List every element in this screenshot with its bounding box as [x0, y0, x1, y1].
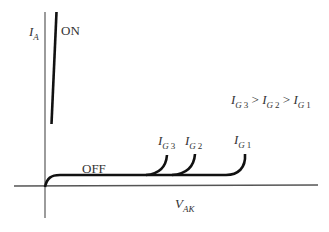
- characteristic-plot: [0, 0, 329, 232]
- on-label: ON: [61, 24, 80, 37]
- off-label: OFF: [82, 162, 106, 175]
- rel-term-2-symbol: I: [262, 92, 266, 107]
- rel-op-2: >: [283, 92, 290, 107]
- x-axis-symbol: V: [175, 196, 183, 211]
- ig2-index: 2: [198, 141, 203, 151]
- ig2-label: IG2: [185, 134, 202, 147]
- ig2-curve: [172, 154, 195, 175]
- rel-term-3-subscript: G: [298, 100, 305, 110]
- rel-op-1: >: [252, 92, 259, 107]
- y-axis-subscript: A: [33, 32, 39, 42]
- on-state-curve: [52, 12, 57, 124]
- ig1-label: IG1: [234, 133, 251, 146]
- x-axis-label: VAK: [175, 197, 194, 210]
- ig1-index: 1: [247, 140, 252, 150]
- off-state-curve: [45, 154, 245, 187]
- rel-term-1-index: 3: [244, 100, 249, 110]
- x-axis: [14, 185, 318, 186]
- ig3-label: IG3: [158, 134, 175, 147]
- rel-term-2-subscript: G: [267, 100, 274, 110]
- rel-term-2-index: 2: [275, 100, 280, 110]
- rel-term-3-index: 1: [306, 100, 311, 110]
- ig1-subscript: G: [238, 140, 245, 150]
- y-axis-label: IA: [29, 25, 39, 38]
- gate-current-relation: IG3 > IG2 > IG1: [231, 93, 311, 106]
- rel-term-1-subscript: G: [235, 100, 242, 110]
- ig3-index: 3: [171, 141, 176, 151]
- ig2-subscript: G: [189, 141, 196, 151]
- x-axis-subscript: AK: [183, 204, 195, 214]
- ig3-subscript: G: [162, 141, 169, 151]
- ig3-curve: [146, 155, 167, 175]
